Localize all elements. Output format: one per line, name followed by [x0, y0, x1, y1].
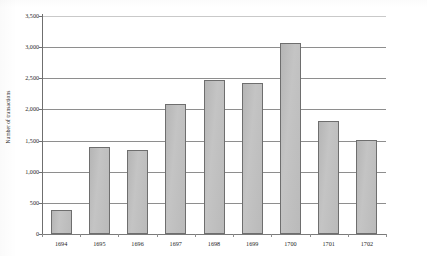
bar: [89, 147, 110, 234]
x-axis-tick-mark: [118, 234, 119, 237]
plot-area: [42, 16, 386, 234]
x-axis-tick-mark: [157, 234, 158, 237]
x-axis-tick-mark: [348, 234, 349, 237]
bar: [204, 80, 225, 234]
x-axis-tick-label: 1701: [322, 240, 334, 247]
bar: [165, 104, 186, 234]
x-axis-tick-label: 1699: [246, 240, 258, 247]
y-axis-tick-label: 500: [30, 200, 39, 206]
bar: [280, 43, 301, 234]
bar: [242, 83, 263, 234]
y-axis-tick-label: 3,500: [25, 13, 39, 19]
x-axis-tick-marks: [42, 234, 386, 238]
x-axis-tick-mark: [386, 234, 387, 237]
y-axis-tick-mark: [39, 109, 43, 110]
x-axis-tick-label: 1697: [170, 240, 182, 247]
y-axis-tick-mark: [39, 203, 43, 204]
x-axis-tick-labels: 169416951696169716981699170017011702: [42, 240, 386, 252]
x-axis-tick-mark: [271, 234, 272, 237]
y-axis-tick-mark: [39, 78, 43, 79]
x-axis-tick-label: 1694: [55, 240, 67, 247]
y-axis-tick-label: 2,500: [25, 75, 39, 81]
x-axis-tick-label: 1700: [284, 240, 296, 247]
bar: [318, 121, 339, 234]
y-axis-tick-labels: 05001,0001,5002,0002,5003,0003,500: [10, 16, 39, 234]
y-axis-tick-mark: [39, 172, 43, 173]
bar: [356, 140, 377, 234]
x-axis-tick-label: 1696: [131, 240, 143, 247]
x-axis-tick-mark: [80, 234, 81, 237]
y-axis-tick-mark: [39, 47, 43, 48]
gridline: [42, 16, 386, 17]
x-axis-tick-label: 1695: [93, 240, 105, 247]
y-axis-tick-label: 3,000: [25, 44, 39, 50]
y-axis-tick-mark: [39, 141, 43, 142]
y-axis-tick-label: 1,000: [25, 169, 39, 175]
x-axis-tick-label: 1698: [208, 240, 220, 247]
x-axis-tick-mark: [42, 234, 43, 237]
y-axis-tick-label: 2,000: [25, 106, 39, 112]
bar: [127, 150, 148, 234]
y-axis-tick-label: 1,500: [25, 138, 39, 144]
bar: [51, 210, 72, 234]
x-axis-tick-mark: [233, 234, 234, 237]
bar-chart: Number of transactions 05001,0001,5002,0…: [0, 0, 427, 256]
x-axis-tick-label: 1702: [361, 240, 373, 247]
gridline: [42, 47, 386, 48]
y-axis-tick-mark: [39, 16, 43, 17]
x-axis-tick-mark: [310, 234, 311, 237]
x-axis-tick-mark: [195, 234, 196, 237]
